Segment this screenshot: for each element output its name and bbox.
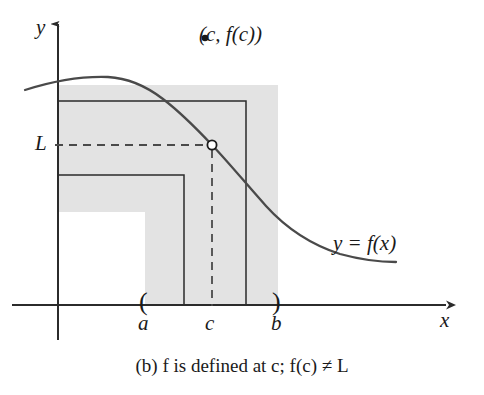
notch-white-region [58,212,145,306]
open-circle-marker [207,140,216,149]
y-axis-label: y [36,17,45,38]
limit-diagram-svg [0,0,484,395]
figure-caption: (b) f is defined at c; f(c) ≠ L [0,355,484,377]
figure-page: y x L ( ) a c b y = f(x) (c, f(c)) (b) f… [0,0,484,395]
curve-equation-label: y = f(x) [333,233,396,254]
limit-value-label: L [35,133,47,154]
x-tick-label-b: b [271,313,282,334]
x-tick-label-c: c [205,313,214,334]
x-axis-label: x [440,310,449,331]
x-tick-label-a: a [138,313,149,334]
point-cfc-label: (c, f(c)) [199,24,262,45]
